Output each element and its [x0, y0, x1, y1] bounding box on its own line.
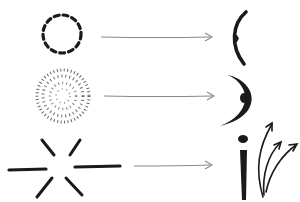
- arrow-row-3: [134, 161, 212, 169]
- small-arc-with-dot-icon: [234, 12, 247, 64]
- arrow-row-2: [104, 92, 214, 100]
- diagram-canvas: [0, 0, 300, 202]
- stippled-circle-icon: [37, 70, 89, 122]
- dashed-circle-icon: [43, 15, 81, 53]
- arrow-row-1: [101, 33, 212, 41]
- radiating-strokes-icon: [9, 140, 120, 197]
- figure-with-upward-arrows-icon: [238, 123, 297, 200]
- crescent-with-dot-icon: [220, 75, 252, 126]
